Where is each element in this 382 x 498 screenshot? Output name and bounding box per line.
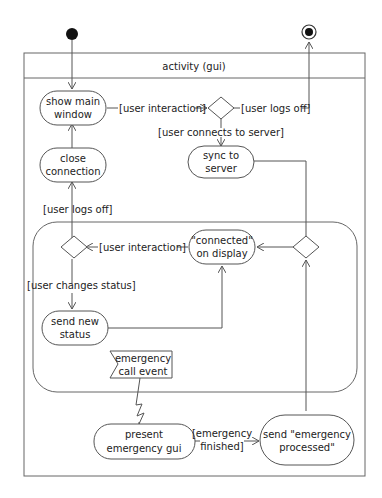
action-send-emergency-processed: send "emergency processed" <box>260 415 354 465</box>
action-present-emergency-gui: present emergency gui <box>94 424 195 459</box>
svg-text:processed": processed" <box>279 442 335 453</box>
svg-text:sync to: sync to <box>203 150 239 161</box>
guard-user-logs-off-top: [user logs off] <box>241 103 311 114</box>
svg-text:window: window <box>54 109 92 120</box>
final-node <box>302 25 316 39</box>
svg-text:present: present <box>125 429 163 440</box>
svg-text:server: server <box>205 163 238 174</box>
svg-text:emergency gui: emergency gui <box>107 443 182 454</box>
svg-text:connection: connection <box>45 166 100 177</box>
decision-node-top <box>208 97 234 119</box>
accept-event-emergency-call: emergency call event <box>110 351 172 378</box>
svg-text:on display: on display <box>196 248 247 259</box>
svg-text:close: close <box>60 153 86 164</box>
svg-text:send "emergency: send "emergency <box>263 429 351 440</box>
guard-user-interaction-mid: [user interaction] <box>99 242 186 253</box>
guard-user-interaction-top: [user interaction] <box>119 103 206 114</box>
action-connected-on-display: "connected" on display <box>189 230 255 264</box>
action-sync-to-server: sync to server <box>188 146 254 178</box>
frame-title: activity (gui) <box>162 61 225 72</box>
svg-text:show main: show main <box>46 96 100 107</box>
guard-user-connects: [user connects to server] <box>158 127 284 138</box>
action-show-main-window: show main window <box>40 91 106 125</box>
svg-text:"connected": "connected" <box>191 235 253 246</box>
action-close-connection: close connection <box>40 148 106 182</box>
guard-user-changes-status: [user changes status] <box>27 280 136 291</box>
svg-text:send new: send new <box>51 316 99 327</box>
action-send-new-status: send new status <box>42 311 108 345</box>
initial-node <box>66 28 78 40</box>
svg-text:call event: call event <box>119 366 168 377</box>
activity-diagram: activity (gui) show main window close co… <box>0 0 382 498</box>
guard-emergency-finished: [emergency <box>192 428 252 439</box>
svg-text:emergency: emergency <box>115 353 171 364</box>
decision-node-left <box>61 236 87 258</box>
guard-emergency-finished-2: finished] <box>200 441 243 452</box>
guard-user-logs-off-left: [user logs off] <box>43 204 113 215</box>
svg-text:status: status <box>60 329 91 340</box>
decision-node-right <box>293 236 319 258</box>
